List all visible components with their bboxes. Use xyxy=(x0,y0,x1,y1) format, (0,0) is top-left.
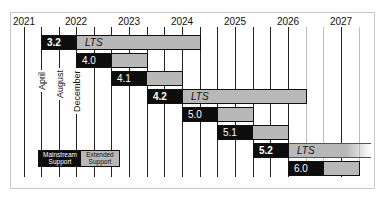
gridline-year xyxy=(24,27,25,177)
year-label-2024: 2024 xyxy=(171,16,193,27)
bar-mainstream-4-1: 4.1 xyxy=(111,71,147,86)
year-label-2022: 2022 xyxy=(65,16,87,27)
bar-extended-6-0 xyxy=(324,161,360,176)
gridline-month xyxy=(323,27,324,162)
year-label-2021: 2021 xyxy=(13,16,35,27)
month-label-april: April xyxy=(37,70,47,92)
legend: Mainstream Support Extended Support xyxy=(38,150,120,167)
year-label-2023: 2023 xyxy=(118,16,140,27)
bar-extended-5-2: LTS xyxy=(289,143,371,158)
legend-extended: Extended Support xyxy=(81,151,119,166)
bar-mainstream-3-2: 3.2 xyxy=(41,35,77,50)
bar-mainstream-6-0: 6.0 xyxy=(288,161,324,176)
bar-mainstream-5-0: 5.0 xyxy=(182,107,218,122)
bar-mainstream-5-2: 5.2 xyxy=(253,143,289,158)
year-label-2026: 2026 xyxy=(277,16,299,27)
bar-mainstream-4-2: 4.2 xyxy=(147,89,183,104)
bar-extended-5-0 xyxy=(218,107,254,122)
year-label-2025: 2025 xyxy=(224,16,246,27)
gridline-month xyxy=(359,27,360,162)
year-label-2027: 2027 xyxy=(330,16,352,27)
bar-extended-5-1 xyxy=(253,125,289,140)
bar-extended-3-2: LTS xyxy=(77,35,201,50)
bar-mainstream-4-0: 4.0 xyxy=(76,53,112,68)
bar-extended-4-1 xyxy=(147,71,183,86)
month-label-august: August xyxy=(55,68,65,100)
bar-mainstream-5-1: 5.1 xyxy=(217,125,253,140)
month-label-december: December xyxy=(72,68,82,114)
bar-extended-4-0 xyxy=(112,53,148,68)
legend-mainstream: Mainstream Support xyxy=(39,151,81,166)
bar-extended-4-2: LTS xyxy=(183,89,307,104)
